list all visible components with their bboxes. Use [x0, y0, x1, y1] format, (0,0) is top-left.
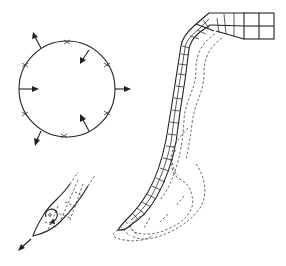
segmented-body-panel — [113, 13, 274, 241]
diagram-canvas — [0, 0, 286, 266]
fingertip-outline — [33, 184, 88, 236]
segment-mesh — [131, 13, 234, 220]
arrow-inward-upper-right-icon — [80, 50, 89, 64]
arrow-inward-lower-right-icon — [80, 114, 89, 131]
fingertip-panel — [18, 172, 95, 251]
arrow-inward-left-icon — [19, 86, 39, 92]
body-outline — [130, 13, 274, 224]
arrow-outward-right-icon — [115, 86, 131, 92]
arrow-outward-lower-left-icon — [34, 131, 41, 146]
circle-panel — [19, 32, 131, 146]
arrow-outward-upper-left-icon — [32, 32, 41, 48]
motion-arrow-icon — [18, 239, 31, 251]
body-tip — [113, 216, 152, 241]
